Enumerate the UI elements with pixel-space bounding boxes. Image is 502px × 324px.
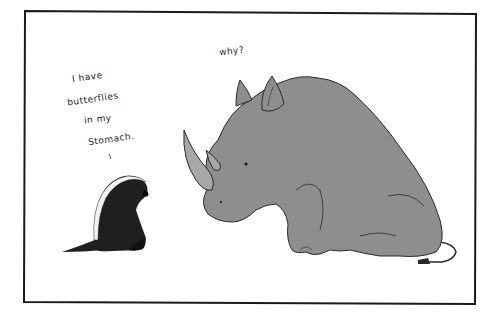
rhinoceros [184,76,456,264]
honey-badger [62,176,149,252]
comic-illustration [0,0,502,324]
speech-tick [109,154,111,159]
comic-panel: I have butterflies in my Stomach. why? [0,0,502,324]
